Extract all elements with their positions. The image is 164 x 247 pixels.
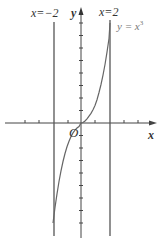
curve-equation-label: y = x3 [117, 20, 143, 32]
curve-equation-base: y = x [117, 20, 140, 32]
cubic-function-graph: x=−2 y x=2 y = x3 O x [0, 0, 164, 247]
curve-equation-exponent: 3 [140, 19, 144, 27]
left-boundary-label: x=−2 [31, 7, 59, 19]
x-axis-arrow-icon [149, 121, 157, 126]
right-boundary-label: x=2 [99, 6, 118, 18]
y-axis-arrow-icon [79, 7, 84, 15]
y-axis-label: y [71, 7, 76, 19]
origin-label: O [69, 126, 78, 139]
graph-canvas [0, 0, 164, 247]
x-axis-label: x [148, 129, 154, 141]
